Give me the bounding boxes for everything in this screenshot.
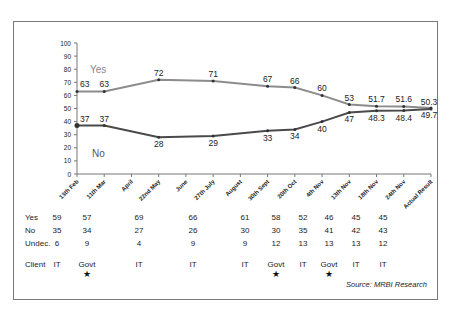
table-cell: 45 — [379, 213, 388, 222]
table-cell: 9 — [85, 239, 89, 248]
data-point — [266, 85, 269, 88]
table-cell: 35 — [299, 226, 308, 235]
table-cell: 35 — [53, 226, 62, 235]
table-cell: 9 — [243, 239, 247, 248]
x-tick-label: 18th Nov — [357, 178, 380, 201]
data-label: 60 — [317, 83, 327, 93]
x-tick-label: 20th Oct — [276, 178, 297, 199]
table-cell: 57 — [83, 213, 92, 222]
y-tick-label: 0 — [67, 171, 71, 178]
table-cell: IT — [53, 260, 60, 269]
table-cell: IT — [135, 260, 142, 269]
legend-yes: Yes — [90, 64, 106, 75]
table-cell: 13 — [325, 239, 334, 248]
data-label: 48.3 — [368, 113, 385, 123]
legend-no: No — [92, 148, 105, 159]
data-label: 67 — [263, 74, 273, 84]
table-cell: 6 — [55, 239, 59, 248]
x-tick-label: 22nd May — [138, 178, 162, 202]
x-tick-label: 11th Mar — [85, 178, 107, 200]
table-cell: Govt — [79, 260, 96, 269]
table-cell: Govt — [268, 260, 285, 269]
data-point — [76, 90, 79, 93]
data-label: 37 — [80, 114, 90, 124]
data-point — [348, 103, 351, 106]
y-tick-label: 70 — [64, 79, 72, 86]
y-tick-label: 10 — [64, 157, 72, 164]
table-cell: 4 — [137, 239, 141, 248]
table-cell: IT — [189, 260, 196, 269]
y-tick-label: 50 — [64, 105, 72, 112]
table-cell: 58 — [272, 213, 281, 222]
data-label: 66 — [290, 76, 300, 86]
y-tick-label: 80 — [64, 66, 72, 73]
data-label: 51.6 — [395, 94, 412, 104]
source-note: Source: MRBI Research — [346, 280, 427, 289]
y-tick-label: 100 — [60, 40, 71, 47]
data-label: 50.3 — [421, 97, 438, 107]
table-cell: 34 — [83, 226, 92, 235]
table-cell: IT — [352, 260, 359, 269]
y-tick-label: 30 — [64, 131, 72, 138]
table-cell: 45 — [352, 213, 361, 222]
data-label: 72 — [154, 68, 164, 78]
x-tick-label: 24th Nov — [384, 178, 407, 201]
data-label: 49.7 — [421, 110, 438, 120]
table-cell: 46 — [325, 213, 334, 222]
table-cell: 12 — [379, 239, 388, 248]
x-tick-label: August — [224, 178, 243, 197]
data-point — [103, 124, 106, 127]
data-label: 53 — [345, 93, 355, 103]
x-tick-label: 30th Sept — [247, 178, 270, 201]
data-label: 33 — [263, 133, 273, 143]
data-label: 29 — [208, 138, 218, 148]
data-point — [75, 123, 80, 128]
y-tick-label: 90 — [64, 53, 72, 60]
table-row-label: No — [25, 226, 35, 235]
star-icon: ★ — [272, 269, 280, 279]
star-icon: ★ — [325, 269, 333, 279]
line-chart: 010203040506070809010013th Feb11th MarAp… — [0, 0, 461, 316]
table-cell: 30 — [272, 226, 281, 235]
table-cell: Govt — [321, 260, 338, 269]
data-label: 28 — [154, 139, 164, 149]
x-tick-label: 13th Feb — [58, 178, 80, 200]
data-point — [293, 86, 296, 89]
data-label: 47 — [345, 114, 355, 124]
table-cell: IT — [241, 260, 248, 269]
table-cell: 41 — [325, 226, 334, 235]
data-label: 40 — [317, 124, 327, 134]
y-tick-label: 20 — [64, 144, 72, 151]
table-cell: 26 — [189, 226, 198, 235]
data-label: 34 — [290, 131, 300, 141]
data-point — [212, 79, 215, 82]
table-row-label: Yes — [25, 213, 38, 222]
table-cell: IT — [299, 260, 306, 269]
x-tick-label: 27th July — [193, 178, 216, 201]
data-label: 48.4 — [395, 113, 412, 123]
table-cell: 59 — [53, 213, 62, 222]
table-cell: 12 — [272, 239, 281, 248]
data-point — [321, 94, 324, 97]
table-cell: 9 — [191, 239, 195, 248]
table-cell: 30 — [241, 226, 250, 235]
data-point — [103, 90, 106, 93]
data-label: 71 — [208, 69, 218, 79]
data-label: 63 — [99, 79, 109, 89]
table-cell: 69 — [135, 213, 144, 222]
table-cell: 61 — [241, 213, 250, 222]
data-point — [157, 78, 160, 81]
star-icon: ★ — [83, 269, 91, 279]
x-tick-label: 4th Nov — [305, 178, 325, 198]
x-tick-label: 13th Nov — [330, 178, 353, 201]
data-point — [402, 105, 405, 108]
table-cell: 52 — [299, 213, 308, 222]
x-tick-label: April — [120, 178, 134, 192]
table-cell: IT — [379, 260, 386, 269]
y-tick-label: 60 — [64, 92, 72, 99]
x-tick-label: June — [174, 178, 189, 193]
table-row-label: Undec. — [25, 239, 50, 248]
data-label: 37 — [99, 114, 109, 124]
table-cell: 13 — [299, 239, 308, 248]
table-cell: 42 — [352, 226, 361, 235]
